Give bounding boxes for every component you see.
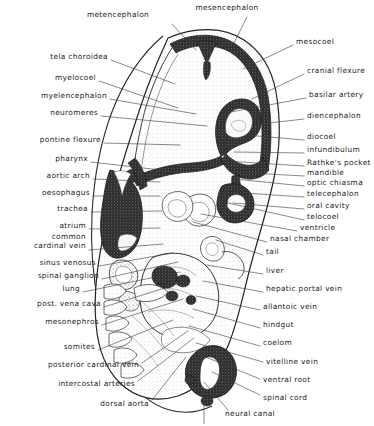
label-optic-chiasma: optic chiasma: [307, 179, 363, 188]
label-myelencephalon: myelencephalon: [0, 92, 107, 101]
label-tela-choroidea: tela choroidea: [0, 53, 108, 62]
label-posterior-cardinal-vein: posterior cardinal vein: [0, 361, 139, 370]
label-aortic-arch: aortic arch: [0, 172, 90, 181]
label-dorsal-aorta: dorsal aorta: [0, 400, 149, 409]
label-infundibulum: infundibulum: [307, 146, 360, 155]
label-rathkes-pocket: Rathke's pocket: [307, 159, 371, 168]
label-basilar-artery: basilar artery: [309, 91, 363, 100]
label-neural-canal: neural canal: [225, 410, 275, 419]
embryo-diagram-figure: metencephalon mesencephalon tela choroid…: [0, 0, 374, 426]
label-telocoel: telocoel: [307, 213, 339, 222]
label-telecephalon: telecephalon: [307, 190, 359, 199]
label-diocoel: diocoel: [307, 133, 336, 142]
label-mesonephros: mesonephros: [0, 318, 99, 327]
label-intercostal-arteries: intercostal arteries: [0, 380, 135, 389]
label-mesocoel: mesocoel: [296, 38, 334, 47]
label-spinal-cord: spinal cord: [263, 394, 307, 403]
label-neuromeres: neuromeres: [0, 109, 98, 118]
label-atrium: atrium: [0, 222, 86, 231]
label-spinal-ganglion: spinal ganglion: [0, 272, 99, 281]
label-trachea: trachea: [0, 205, 88, 214]
label-diencephalon: diencephalon: [307, 112, 361, 121]
label-lung: lung: [0, 285, 80, 294]
label-myelocoel: myelocoel: [0, 74, 96, 83]
label-common-cardinal-vein: commoncardinal vein: [0, 232, 86, 250]
label-hindgut: hindgut: [263, 321, 294, 330]
label-vitelline-vein: vitelline vein: [266, 358, 318, 367]
label-ventral-root: ventral root: [263, 376, 311, 385]
label-metencephalon: metencephalon: [73, 11, 163, 20]
label-ventricle: ventricle: [300, 224, 335, 233]
label-coelom: coelom: [263, 339, 292, 348]
label-liver: liver: [266, 267, 284, 276]
label-sinus-venosus: sinus venosus: [0, 259, 96, 268]
label-nasal-chamber: nasal chamber: [270, 235, 329, 244]
label-pharynx: pharynx: [0, 155, 88, 164]
label-cranial-flexure: cranial flexure: [307, 67, 365, 76]
label-mesencephalon: mesencephalon: [182, 4, 272, 13]
label-oesophagus: oesophagus: [0, 189, 90, 198]
label-tail: tail: [266, 248, 279, 257]
label-pontine-flexure: pontine flexure: [0, 136, 101, 145]
label-post-vena-cava: post. vena cava: [0, 300, 101, 309]
label-somites: somites: [0, 343, 95, 352]
label-hepatic-portal-vein: hepatic portal vein: [266, 285, 342, 294]
label-allantoic-vein: allantoic vein: [263, 303, 317, 312]
label-oral-cavity: oral cavity: [307, 202, 350, 211]
label-mandible: mandible: [307, 169, 344, 178]
